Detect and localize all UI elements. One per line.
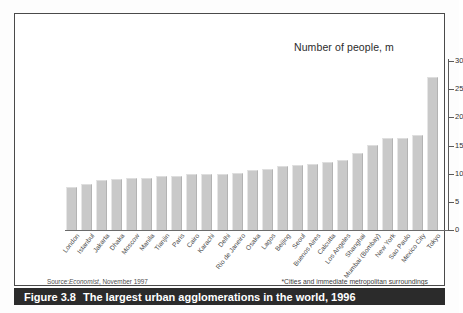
bar: [111, 179, 122, 230]
bar: [322, 162, 333, 230]
bar: [382, 138, 393, 230]
y-tick-mark: [448, 202, 454, 203]
figure-frame: Number of people, m 051015202530 LondonI…: [14, 13, 445, 286]
y-tick-label: 20: [455, 113, 463, 121]
x-axis-label: Paris: [171, 232, 186, 248]
y-tick-label: 30: [455, 57, 463, 65]
x-axis-label: Osaka: [244, 232, 261, 252]
bar: [81, 184, 92, 230]
source-date: , November 1997: [99, 278, 148, 285]
source-note: Source:Economist, November 1997: [47, 278, 148, 285]
x-axis-label: Tokyo: [425, 232, 441, 250]
y-tick-label: 25: [455, 85, 463, 93]
bar: [141, 178, 152, 230]
bar: [337, 160, 348, 230]
y-tick-mark: [448, 146, 454, 147]
bar: [292, 165, 303, 230]
bar: [412, 135, 423, 230]
y-tick-label: 0: [455, 226, 459, 234]
source-publication: Economist: [69, 278, 99, 285]
figure-title: The largest urban agglomerations in the …: [83, 291, 356, 303]
source-prefix: Source:: [47, 278, 69, 285]
bar: [96, 180, 107, 230]
bar: [232, 173, 243, 230]
chart-footnote: *Cities and immediate metropolitan surro…: [281, 278, 428, 285]
y-tick-mark: [448, 117, 454, 118]
x-axis-label: Manila: [138, 232, 156, 252]
bar: [352, 153, 363, 230]
y-axis-title: Number of people, m: [294, 41, 394, 53]
figure-number: Figure 3.8: [24, 291, 76, 303]
bar: [427, 77, 438, 230]
y-tick-mark: [448, 230, 454, 231]
bar: [277, 166, 288, 230]
bar: [397, 138, 408, 230]
bar: [201, 174, 212, 230]
bar: [66, 187, 77, 230]
bar: [156, 176, 167, 230]
y-tick-mark: [448, 61, 454, 62]
x-axis-label: Tianjin: [153, 232, 171, 252]
figure-caption-bar: Figure 3.8 The largest urban agglomerati…: [14, 288, 445, 305]
bar: [367, 145, 378, 230]
bar: [247, 170, 258, 230]
bar: [262, 169, 273, 230]
bar: [126, 178, 137, 230]
y-tick-label: 10: [455, 170, 463, 178]
y-axis-line: [448, 59, 449, 230]
y-tick-mark: [448, 174, 454, 175]
bar: [217, 174, 228, 230]
chart-plot-area: Number of people, m 051015202530 LondonI…: [39, 27, 424, 219]
bar: [307, 164, 318, 230]
y-tick-mark: [448, 89, 454, 90]
bar-series: [65, 61, 442, 230]
y-tick-label: 5: [455, 198, 459, 206]
bar: [186, 174, 197, 230]
y-tick-label: 15: [455, 142, 463, 150]
bar: [171, 176, 182, 230]
